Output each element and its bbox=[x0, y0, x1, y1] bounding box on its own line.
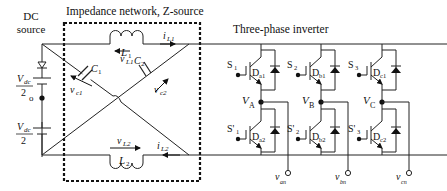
svg-text:v: v bbox=[70, 84, 75, 95]
iL2-label: i L2 bbox=[157, 140, 169, 153]
svg-text:dc: dc bbox=[24, 126, 32, 134]
leg-a-labels: S 1 D a1 V A S' 1 D a2 v an bbox=[227, 59, 286, 185]
inverter-leg-b bbox=[296, 44, 351, 176]
impedance-network-title: Impedance network, Z-source bbox=[66, 5, 204, 18]
svg-text:S: S bbox=[227, 59, 233, 70]
svg-text:2: 2 bbox=[21, 135, 26, 146]
svg-text:bn: bn bbox=[340, 179, 346, 185]
svg-text:L1: L1 bbox=[166, 35, 174, 43]
svg-text:S: S bbox=[287, 59, 293, 70]
svg-text:c1: c1 bbox=[76, 89, 83, 97]
impedance-network-boundary bbox=[64, 23, 200, 181]
inverter-leg-c bbox=[357, 44, 412, 176]
svg-text:a1: a1 bbox=[259, 72, 265, 79]
dc-source-title-line2: source bbox=[17, 23, 46, 35]
diode-upper-icon bbox=[330, 67, 340, 73]
midpoint-node-icon bbox=[39, 95, 44, 100]
z-source-inverter-diagram: DC source Impedance network, Z-source Th… bbox=[0, 0, 447, 191]
diode-upper-icon bbox=[391, 67, 401, 73]
svg-text:1: 1 bbox=[234, 64, 237, 71]
output-terminal-icon bbox=[345, 170, 350, 175]
svg-text:c1: c1 bbox=[380, 72, 386, 79]
svg-text:b1: b1 bbox=[319, 72, 326, 79]
svg-text:2: 2 bbox=[296, 128, 299, 135]
svg-text:cn: cn bbox=[401, 179, 407, 185]
svg-text:C: C bbox=[134, 55, 141, 66]
svg-text:2: 2 bbox=[141, 60, 145, 68]
svg-text:v: v bbox=[120, 53, 125, 64]
capacitor-C1-icon bbox=[78, 66, 92, 80]
svg-text:S: S bbox=[348, 59, 354, 70]
svg-text:dc: dc bbox=[24, 78, 32, 86]
svg-text:1: 1 bbox=[98, 68, 102, 76]
iL1-label: i L1 bbox=[163, 30, 174, 43]
inverter-title: Three-phase inverter bbox=[233, 23, 329, 36]
svg-text:c2: c2 bbox=[160, 89, 167, 97]
L2-label: L 2 bbox=[118, 154, 130, 168]
svg-text:c2: c2 bbox=[380, 136, 386, 143]
svg-text:B: B bbox=[309, 101, 314, 110]
svg-text:A: A bbox=[249, 101, 255, 110]
svg-text:b2: b2 bbox=[319, 136, 326, 143]
svg-text:L2: L2 bbox=[160, 145, 169, 153]
vdc-bottom-label: V dc 2 bbox=[16, 121, 33, 146]
svg-text:a2: a2 bbox=[259, 136, 265, 143]
svg-text:v: v bbox=[117, 135, 122, 146]
inductor-L1-icon bbox=[110, 31, 143, 44]
midpoint-label: o bbox=[29, 93, 34, 103]
svg-text:2: 2 bbox=[126, 160, 130, 168]
svg-text:L2: L2 bbox=[122, 140, 131, 148]
svg-text:C: C bbox=[370, 101, 375, 110]
inverter-leg-a bbox=[236, 44, 291, 176]
dc-source-title-line1: DC bbox=[23, 10, 38, 22]
svg-text:i: i bbox=[157, 140, 160, 151]
vc1-label: v c1 bbox=[70, 84, 83, 97]
svg-text:S': S' bbox=[227, 123, 235, 134]
diode-upper-icon bbox=[270, 67, 280, 73]
leg-c-labels: S 3 D c1 V C S' 3 D c2 v cn bbox=[348, 59, 407, 185]
svg-text:S': S' bbox=[348, 123, 356, 134]
diode-lower-icon bbox=[330, 128, 340, 134]
svg-text:an: an bbox=[280, 179, 286, 185]
svg-text:1: 1 bbox=[236, 128, 239, 135]
svg-text:3: 3 bbox=[355, 64, 358, 71]
svg-text:v: v bbox=[154, 84, 159, 95]
svg-text:2: 2 bbox=[21, 87, 26, 98]
vL2-label: v L2 bbox=[117, 135, 131, 148]
diode-lower-icon bbox=[270, 128, 280, 134]
output-terminal-icon bbox=[285, 170, 290, 175]
source-diode-icon bbox=[38, 62, 46, 68]
diode-lower-icon bbox=[391, 128, 401, 134]
svg-text:L: L bbox=[118, 154, 125, 166]
svg-text:C: C bbox=[91, 63, 98, 74]
output-terminal-icon bbox=[406, 170, 411, 175]
svg-text:i: i bbox=[163, 30, 166, 41]
svg-text:2: 2 bbox=[294, 64, 297, 71]
svg-text:3: 3 bbox=[357, 128, 360, 135]
C1-label: C 1 bbox=[91, 63, 102, 76]
svg-text:S': S' bbox=[287, 123, 295, 134]
svg-text:L1: L1 bbox=[125, 58, 133, 66]
leg-b-labels: S 2 D b1 V B S' 2 D b2 v bn bbox=[287, 59, 346, 185]
dc-source bbox=[33, 44, 51, 157]
